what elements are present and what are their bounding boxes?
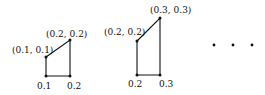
shape-2-top-right-label: (0.3, 0.3) — [150, 5, 191, 15]
shape-2-bottom-left-label: 0.2 — [128, 79, 142, 89]
ellipsis-dots — [213, 44, 254, 47]
shape-1-bottom-left-label: 0.1 — [37, 81, 51, 91]
shape-1-top-right-label: (0.2, 0.2) — [46, 29, 87, 39]
shape-2-bottom-left-vertex — [136, 74, 139, 77]
ellipsis-dot-3 — [251, 44, 254, 47]
shape-1-bottom-left-vertex — [45, 75, 48, 78]
shape-1-bottom-right-label: 0.2 — [67, 81, 81, 91]
trapezoid-shape-2: (0.2, 0.2) (0.3, 0.3) 0.2 0.3 — [104, 5, 191, 89]
ellipsis-dot-1 — [213, 44, 216, 47]
ellipsis-dot-2 — [232, 44, 235, 47]
shape-2-top-left-label: (0.2, 0.2) — [104, 27, 145, 37]
shape-2-bottom-right-label: 0.3 — [159, 79, 174, 89]
shape-2-top-right-vertex — [159, 17, 162, 20]
trapezoid-shape-1: (0.1, 0.1) (0.2, 0.2) 0.1 0.2 — [12, 29, 87, 91]
shape-1-bottom-right-vertex — [69, 75, 72, 78]
shape-1-top-left-label: (0.1, 0.1) — [12, 45, 53, 55]
shape-2-top-left-vertex — [136, 40, 139, 43]
shape-2-bottom-right-vertex — [159, 74, 162, 77]
trapezoid-sequence-diagram: (0.1, 0.1) (0.2, 0.2) 0.1 0.2 (0.2, 0.2)… — [0, 0, 265, 95]
shape-1-top-left-vertex — [45, 56, 48, 59]
